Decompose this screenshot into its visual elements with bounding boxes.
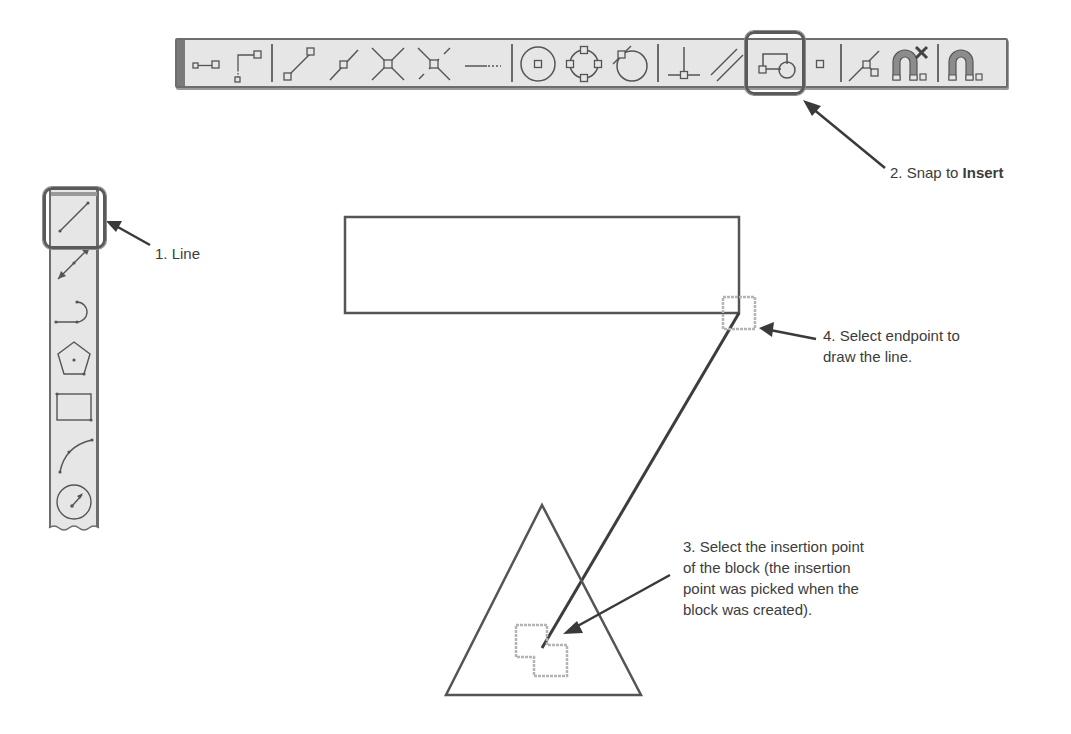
snap-none-icon xyxy=(887,42,933,84)
parallel-icon xyxy=(707,42,747,84)
snap-apparent-intersection-button[interactable] xyxy=(413,42,455,84)
snap-midpoint-button[interactable] xyxy=(323,42,363,84)
snap-parallel-button[interactable] xyxy=(707,42,747,84)
snap-quadrant-button[interactable] xyxy=(563,42,605,84)
step2-arrow xyxy=(803,100,885,168)
midpoint-icon xyxy=(323,42,363,84)
tangent-icon xyxy=(609,42,651,84)
step3-line-3: point was picked when the xyxy=(683,578,864,599)
circle-icon xyxy=(51,478,97,524)
step1-arrow xyxy=(106,221,150,245)
step3-arrow xyxy=(563,575,670,634)
circle-button[interactable] xyxy=(51,478,97,524)
step2-callout: 2. Snap to Insert xyxy=(890,162,1003,183)
object-snap-toolbar xyxy=(175,38,1008,88)
step4-line-2: draw the line. xyxy=(823,346,960,367)
snap-tangent-button[interactable] xyxy=(609,42,651,84)
center-icon xyxy=(517,42,559,84)
nearest-icon xyxy=(845,42,885,84)
toolbar-separator xyxy=(840,44,842,82)
temporary-track-point-icon xyxy=(189,42,225,84)
osnap-settings-button[interactable] xyxy=(943,42,989,84)
perpendicular-icon xyxy=(663,42,705,84)
snap-perpendicular-button[interactable] xyxy=(663,42,705,84)
polygon-button[interactable] xyxy=(51,336,97,382)
arc-button[interactable] xyxy=(51,432,97,478)
snap-node-button[interactable] xyxy=(807,42,833,84)
snap-from-icon xyxy=(229,42,265,84)
toolbar-grip-handle[interactable] xyxy=(177,40,185,86)
triangle-block xyxy=(446,505,641,695)
node-icon xyxy=(807,42,833,84)
step3-callout: 3. Select the insertion point of the blo… xyxy=(683,536,864,620)
quadrant-icon xyxy=(563,42,605,84)
step4-line-1: 4. Select endpoint to xyxy=(823,325,960,346)
draw-toolbar xyxy=(49,190,99,530)
extension-icon xyxy=(459,42,505,84)
line-button[interactable] xyxy=(51,192,97,238)
rectangle-icon xyxy=(51,386,97,432)
snap-endpoint-button[interactable] xyxy=(279,42,319,84)
toolbar-separator xyxy=(937,44,939,82)
insert-snap-marker xyxy=(516,625,567,676)
toolbar-separator xyxy=(511,44,513,82)
arc-icon xyxy=(51,432,97,478)
endpoint-icon xyxy=(279,42,319,84)
step2-text: 2. Snap to xyxy=(890,164,963,181)
snap-extension-button[interactable] xyxy=(459,42,505,84)
step4-callout: 4. Select endpoint to draw the line. xyxy=(823,325,960,367)
polyline-icon xyxy=(51,288,97,334)
snap-insert-button[interactable] xyxy=(750,42,802,84)
drawing-canvas xyxy=(0,0,1071,734)
apparent-intersection-icon xyxy=(413,42,455,84)
intersection-icon xyxy=(367,42,409,84)
step3-line-1: 3. Select the insertion point xyxy=(683,536,864,557)
construction-line-icon xyxy=(51,240,97,286)
step3-line-4: block was created). xyxy=(683,599,864,620)
toolbar-separator xyxy=(657,44,659,82)
rectangle-button[interactable] xyxy=(51,386,97,432)
temporary-track-point-button[interactable] xyxy=(189,42,225,84)
rectangle-object xyxy=(345,217,739,313)
endpoint-snap-marker xyxy=(723,297,755,329)
polyline-button[interactable] xyxy=(51,288,97,334)
snap-center-button[interactable] xyxy=(517,42,559,84)
snap-nearest-button[interactable] xyxy=(845,42,885,84)
step3-line-2: of the block (the insertion xyxy=(683,557,864,578)
step1-callout: 1. Line xyxy=(155,243,200,264)
snap-none-button[interactable] xyxy=(887,42,933,84)
osnap-settings-icon xyxy=(943,42,989,84)
construction-line-button[interactable] xyxy=(51,240,97,286)
step2-bold-text: Insert xyxy=(963,164,1004,181)
polygon-icon xyxy=(51,336,97,382)
snap-intersection-button[interactable] xyxy=(367,42,409,84)
step4-arrow xyxy=(759,322,816,339)
snap-from-button[interactable] xyxy=(229,42,265,84)
toolbar-separator xyxy=(271,44,273,82)
line-icon xyxy=(51,192,97,238)
insert-icon xyxy=(750,42,802,84)
